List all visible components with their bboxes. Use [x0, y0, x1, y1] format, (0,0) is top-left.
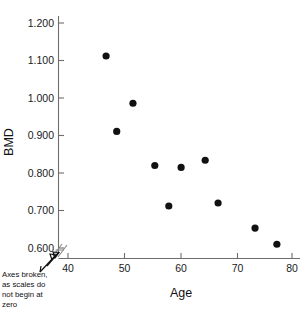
x-tick-label-40: 40 [62, 262, 74, 274]
x-tick-label-60: 60 [175, 262, 187, 274]
chart-canvas: 1.200 1.100 1.000 0.900 0.800 0.700 0.60… [0, 0, 305, 315]
y-tick-label-0600: 0.600 [28, 242, 54, 254]
data-point [113, 128, 120, 135]
axes-broken-note-line-1: Axes broken, [2, 270, 48, 279]
axes-broken-note: Axes broken, as scales do not begin at z… [2, 270, 48, 309]
data-point [129, 100, 136, 107]
axes-broken-note-line-2: as scales do [2, 280, 46, 289]
x-tick-label-50: 50 [119, 262, 131, 274]
x-axis-title: Age [170, 286, 192, 300]
x-axis-ticks [68, 253, 292, 259]
y-tick-label-0900: 0.900 [28, 129, 54, 141]
scatter-chart-figure: 1.200 1.100 1.000 0.900 0.800 0.700 0.60… [0, 0, 305, 315]
data-point [178, 164, 185, 171]
axes-broken-note-line-4: zero [2, 300, 18, 309]
y-tick-label-0700: 0.700 [28, 204, 54, 216]
x-tick-label-70: 70 [232, 262, 244, 274]
x-tick-label-80: 80 [286, 262, 298, 274]
y-axis-ticks [59, 23, 65, 248]
data-points-layer [102, 52, 280, 247]
y-tick-label-1000: 1.000 [28, 92, 54, 104]
x-axis-tick-labels: 40 50 60 70 80 [62, 262, 298, 274]
data-point [202, 157, 209, 164]
y-axis-title: BMD [2, 128, 16, 156]
y-tick-label-0800: 0.800 [28, 167, 54, 179]
data-point [151, 162, 158, 169]
data-point [273, 241, 280, 248]
data-point [102, 52, 109, 59]
data-point [165, 202, 172, 209]
y-axis-tick-labels: 1.200 1.100 1.000 0.900 0.800 0.700 0.60… [28, 17, 54, 254]
y-tick-label-1100: 1.100 [28, 54, 54, 66]
axes-broken-arrow [40, 252, 59, 272]
axes-broken-note-line-3: not begin at [2, 290, 44, 299]
data-point [214, 199, 221, 206]
y-tick-label-1200: 1.200 [28, 17, 54, 29]
data-point [251, 225, 258, 232]
